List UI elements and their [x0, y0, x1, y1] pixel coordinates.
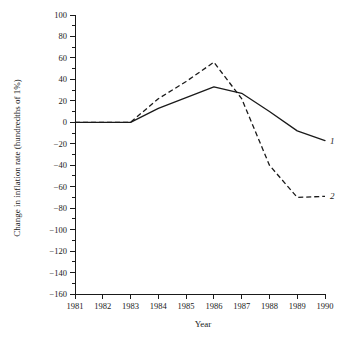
y-axis-title: Change in inflation rate (hundredths of …: [12, 79, 22, 236]
y-tick-label: −140: [49, 268, 67, 278]
y-tick-label: −100: [49, 225, 67, 235]
y-tick-label: −60: [54, 182, 67, 192]
x-tick-label: 1987: [233, 301, 250, 311]
x-axis: 1981198219831984198519861987198819891990: [67, 294, 334, 311]
x-tick-label: 1981: [67, 301, 84, 311]
x-tick-label: 1985: [178, 301, 195, 311]
x-tick-label: 1982: [94, 301, 111, 311]
y-tick-label: −160: [49, 289, 67, 299]
series-group: [75, 62, 325, 197]
series-labels: 12: [330, 136, 335, 202]
y-tick-label: 40: [59, 74, 68, 84]
chart-root: 100806040200−20−40−60−80−100−120−140−160…: [0, 0, 346, 340]
y-tick-label: 80: [59, 31, 68, 41]
y-tick-label: −80: [54, 203, 67, 213]
y-tick-label: 20: [59, 96, 68, 106]
y-tick-label: −120: [49, 246, 67, 256]
series-label-1: 1: [330, 136, 335, 146]
x-tick-label: 1986: [205, 301, 222, 311]
x-tick-label: 1988: [261, 301, 278, 311]
series-line-2: [75, 62, 325, 197]
y-tick-label: 60: [59, 53, 68, 63]
x-tick-label: 1984: [150, 301, 168, 311]
series-line-1: [75, 87, 325, 141]
chart-canvas: 100806040200−20−40−60−80−100−120−140−160…: [0, 0, 346, 340]
series-label-2: 2: [330, 191, 335, 201]
x-tick-label: 1983: [122, 301, 139, 311]
y-tick-label: −20: [54, 139, 67, 149]
y-tick-label: 100: [54, 10, 67, 20]
y-tick-label: −40: [54, 160, 67, 170]
x-tick-label: 1989: [289, 301, 306, 311]
x-axis-title: Year: [195, 319, 212, 329]
line-chart-figure: 100806040200−20−40−60−80−100−120−140−160…: [0, 0, 346, 340]
y-tick-label: 0: [63, 117, 67, 127]
x-tick-label: 1990: [317, 301, 334, 311]
y-axis: 100806040200−20−40−60−80−100−120−140−160: [49, 10, 75, 299]
